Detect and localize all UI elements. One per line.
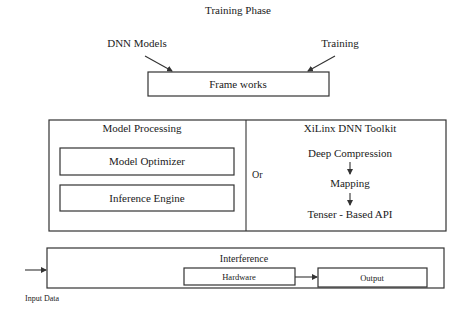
dnn-models-arrow	[145, 56, 172, 71]
frameworks-label: Frame works	[209, 78, 267, 90]
dnn-models-label: DNN Models	[107, 37, 167, 49]
tensor-api-label: Tenser - Based API	[307, 208, 392, 220]
inference-engine-label: Inference Engine	[109, 192, 185, 204]
mapping-label: Mapping	[330, 177, 370, 189]
input-data-label: Input Data	[25, 294, 59, 303]
xilinx-toolkit-title: XiLinx DNN Toolkit	[304, 122, 397, 134]
model-processing-title: Model Processing	[102, 122, 182, 134]
or-label: Or	[252, 169, 263, 180]
interference-title: Interference	[220, 253, 269, 264]
diagram-title: Training Phase	[205, 4, 271, 16]
model-optimizer-label: Model Optimizer	[109, 155, 185, 167]
output-label: Output	[360, 273, 384, 283]
hardware-label: Hardware	[222, 272, 256, 282]
training-arrow	[308, 56, 335, 71]
training-label: Training	[321, 37, 359, 49]
diagram-canvas: Training Phase DNN Models Training Frame…	[0, 0, 462, 317]
deep-compression-label: Deep Compression	[308, 147, 393, 159]
